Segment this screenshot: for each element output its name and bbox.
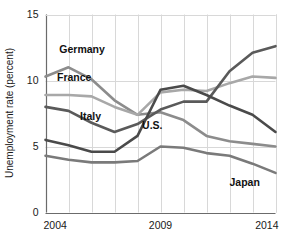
series-label-us: U.S.	[142, 119, 163, 131]
x-tick-label: 2009	[149, 219, 173, 231]
y-tick-label: 15	[27, 8, 39, 20]
unemployment-rate-line-chart: 051015 200420092014 GermanyFranceItalyU.…	[0, 0, 286, 245]
series-label-germany: Germany	[59, 43, 105, 55]
x-tick-label: 2004	[44, 219, 68, 231]
series-label-italy: Italy	[80, 110, 101, 122]
y-axis-title: Unemployment rate (percent)	[4, 48, 15, 178]
x-tick-label: 2014	[255, 219, 279, 231]
y-tick-label: 10	[27, 74, 39, 86]
series-label-japan: Japan	[230, 176, 260, 188]
series-label-france: France	[57, 71, 92, 83]
y-tick-label: 5	[33, 140, 39, 152]
chart-canvas: 051015 200420092014 GermanyFranceItalyU.…	[0, 0, 286, 245]
y-tick-label: 0	[33, 206, 39, 218]
